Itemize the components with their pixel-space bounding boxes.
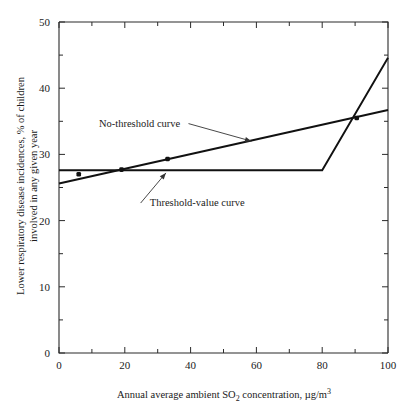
y-tick-label: 50	[39, 16, 51, 28]
data-point-marker	[119, 167, 124, 172]
annotation-label: No-threshold curve	[99, 118, 181, 129]
y-tick-label: 30	[39, 148, 51, 160]
annotation-arrow-icon	[245, 137, 252, 142]
x-tick-label: 40	[185, 359, 197, 371]
data-point-marker	[354, 116, 359, 121]
annotation-label: Threshold-value curve	[150, 197, 245, 208]
axes	[59, 22, 388, 353]
data-point-marker	[165, 157, 170, 162]
data-point-marker	[76, 172, 81, 177]
x-tick-label: 60	[251, 359, 263, 371]
y-tick-label: 0	[45, 347, 51, 359]
tick-marks	[59, 22, 388, 353]
x-tick-label: 20	[119, 359, 131, 371]
y-tick-label: 20	[39, 215, 51, 227]
x-tick-label: 80	[317, 359, 329, 371]
x-tick-label: 100	[380, 359, 397, 371]
y-tick-label: 40	[39, 82, 51, 94]
chart-figure: 02040608010001020304050 No-threshold cur…	[0, 0, 410, 412]
tick-labels: 02040608010001020304050	[39, 16, 397, 371]
series-annotations: No-threshold curveThreshold-value curve	[99, 118, 252, 208]
plot-area: 02040608010001020304050 No-threshold cur…	[0, 0, 410, 412]
series-line-threshold-value-curve	[59, 58, 388, 171]
y-tick-label: 10	[39, 281, 51, 293]
x-tick-label: 0	[56, 359, 62, 371]
